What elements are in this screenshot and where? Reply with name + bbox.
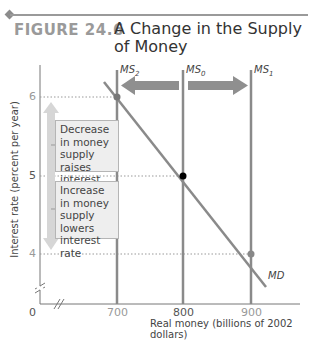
chart-plot — [0, 0, 322, 340]
md-line — [104, 82, 266, 287]
x-tick-900: 900 — [241, 306, 262, 319]
decrease-annotation-box: Decrease in money supply raises interest… — [55, 120, 119, 172]
md-label: MD — [268, 270, 284, 281]
ms2-label: MS2 — [120, 64, 139, 78]
y-tick-6: 6 — [29, 90, 36, 103]
ms1-label: MS1 — [254, 64, 273, 78]
increase-annotation-box: Increase in money supply lowers interest… — [55, 181, 119, 239]
arrow-right-icon — [188, 76, 248, 95]
point-ms2-md — [114, 94, 121, 101]
ms0-label: MS0 — [186, 64, 205, 78]
x-tick-800: 800 — [173, 306, 194, 319]
arrow-left-icon — [121, 76, 179, 95]
origin-label: 0 — [29, 306, 36, 319]
point-ms0-md — [180, 173, 187, 180]
point-ms1-md — [248, 251, 255, 258]
y-axis-label: Interest rate (percent per year) — [9, 100, 20, 260]
y-tick-5: 5 — [29, 169, 36, 182]
x-axis-label: Real money (billions of 2002 dollars) — [150, 318, 322, 340]
x-tick-700: 700 — [107, 306, 128, 319]
y-tick-4: 4 — [29, 247, 36, 260]
